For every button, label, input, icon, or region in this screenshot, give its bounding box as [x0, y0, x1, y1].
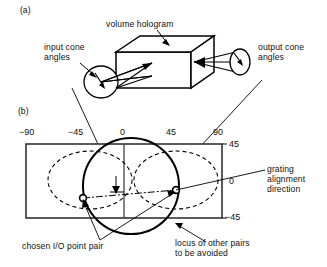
y-tick-45: 45 — [229, 139, 239, 149]
grating-direction-line3: direction — [267, 184, 300, 194]
x-tick-90: 90 — [213, 127, 223, 137]
output-cone-label-line2: angles — [258, 52, 284, 62]
y-tick-zero: 0 — [229, 176, 234, 186]
locus-label-line2: to be avoided — [175, 248, 228, 258]
grating-direction-line1: grating — [267, 164, 294, 174]
volume-hologram-label: volume hologram — [106, 19, 173, 29]
locus-label-line1: locus of other pairs — [175, 238, 250, 248]
chosen-pair-label: chosen I/O point pair — [22, 241, 103, 251]
figure-canvas — [0, 0, 327, 267]
panel-label-b: (b) — [18, 106, 29, 116]
panel-label-a: (a) — [20, 5, 31, 15]
output-cone-label-line1: output cone — [258, 42, 304, 52]
panel-b-plot — [26, 138, 265, 242]
x-tick-minus90: −90 — [19, 127, 34, 137]
x-tick-zero: 0 — [120, 127, 125, 137]
input-cone-label-line2: angles — [44, 52, 70, 62]
grating-direction-line2: alignment — [267, 174, 305, 184]
x-tick-45: 45 — [166, 127, 176, 137]
y-tick-minus45: −45 — [225, 212, 240, 222]
input-cone-label-line1: input cone — [44, 42, 85, 52]
x-tick-minus45: −45 — [68, 127, 83, 137]
panel-a-diagram — [80, 30, 250, 98]
